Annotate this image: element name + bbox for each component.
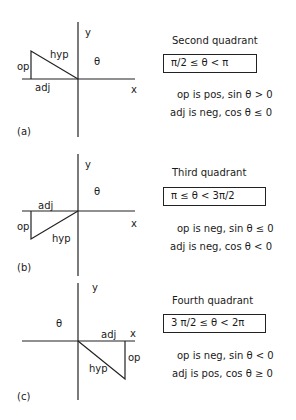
op-label: op [17, 221, 29, 233]
panel-b-axes [22, 154, 135, 276]
adj-label: adj [38, 200, 53, 212]
panel-a-axes [22, 22, 135, 137]
quadrant-title: Second quadrant [172, 35, 258, 47]
angle-range: π ≤ θ < 3π/2 [171, 190, 235, 201]
hyp-label: hyp [89, 363, 108, 375]
op-condition: op is neg, sin θ < 0 [177, 350, 274, 362]
panel-label: (b) [17, 262, 31, 274]
adj-condition: adj is neg, cos θ ≤ 0 [170, 107, 272, 119]
angle-range-box: π ≤ θ < 3π/2 [163, 187, 266, 206]
op-label: op [128, 352, 140, 364]
angle-range-box: π/2 ≤ θ < π [163, 54, 257, 73]
adj-label: adj [101, 329, 116, 341]
panel-label: (a) [17, 126, 31, 138]
op-condition: op is pos, sin θ > 0 [177, 89, 273, 101]
op-condition: op is neg, sin θ ≤ 0 [177, 223, 274, 235]
x-axis-label: x [131, 84, 137, 96]
y-axis-label: y [85, 159, 91, 171]
x-axis-label: x [131, 218, 137, 230]
hyp-label: hyp [50, 49, 69, 61]
theta-label: θ [94, 186, 100, 198]
panel-label: (c) [17, 391, 30, 403]
panel-c-axes [22, 283, 135, 400]
adj-label: adj [35, 82, 50, 94]
x-axis-label: x [130, 328, 136, 340]
y-axis-label: y [85, 27, 91, 39]
angle-range-box: 3 π/2 ≤ θ < 2π [163, 314, 266, 333]
adj-condition: adj is pos, cos θ ≥ 0 [172, 368, 273, 380]
angle-range: 3 π/2 ≤ θ < 2π [171, 317, 244, 328]
adj-condition: adj is neg, cos θ < 0 [170, 241, 272, 253]
quadrant-title: Fourth quadrant [172, 295, 253, 307]
quadrant-title: Third quadrant [172, 167, 246, 179]
theta-label: θ [94, 56, 100, 68]
angle-range: π/2 ≤ θ < π [171, 57, 228, 68]
op-label: op [17, 61, 29, 73]
y-axis-label: y [92, 282, 98, 294]
hyp-label: hyp [52, 233, 71, 245]
theta-label: θ [56, 318, 62, 330]
